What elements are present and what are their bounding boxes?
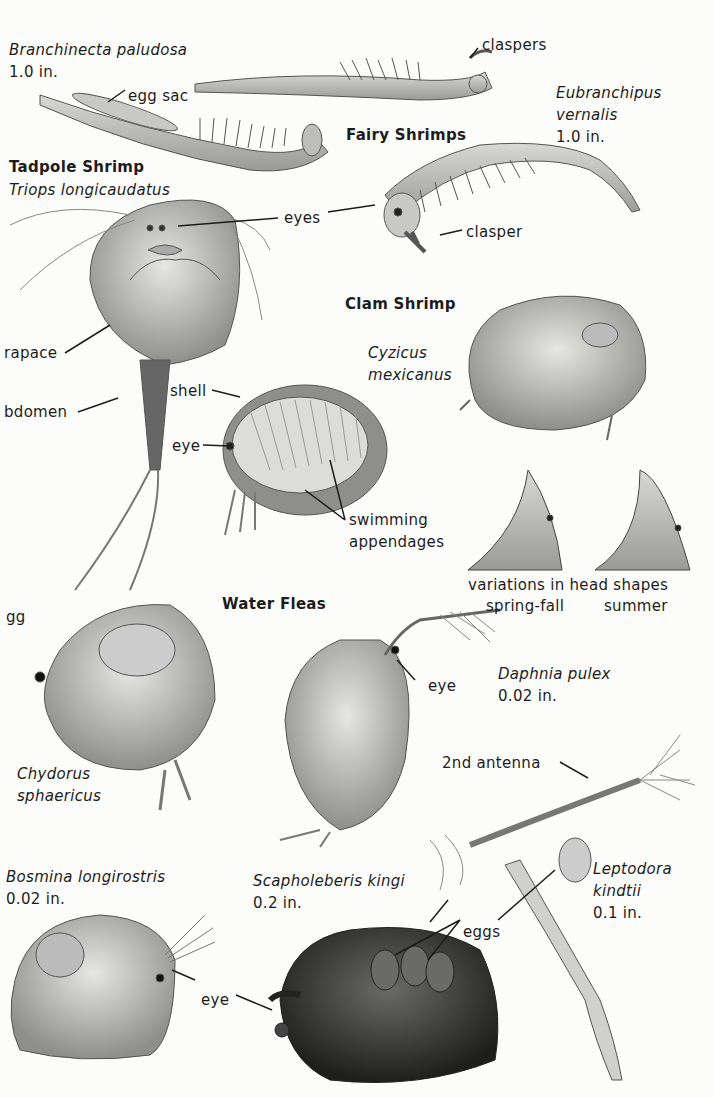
eubranchipus-name-line1: Eubranchipus [556,83,662,103]
eye-callout-daphnia: eye [428,676,456,696]
second-antenna-callout: 2nd antenna [442,753,541,773]
claspers-callout: claspers [482,35,547,55]
daphnia-name: Daphnia pulex [498,664,611,684]
summer-caption: summer [604,596,668,616]
chydorus-name-line2: sphaericus [17,786,101,806]
eggs-callout: eggs [463,922,500,942]
bosmina-illustration [11,915,215,1059]
triops-name: Triops longicaudatus [9,180,170,200]
scapholeberis-name: Scapholeberis kingi [253,871,405,891]
abdomen-callout: bdomen [4,402,67,422]
bosmina-name: Bosmina longirostris [6,867,165,887]
leptodora-size: 0.1 in. [593,903,642,923]
egg-partial-callout: gg [6,607,26,627]
eubranchipus-name-line2: vernalis [556,105,618,125]
bosmina-size: 0.02 in. [6,889,65,909]
head-shapes-caption: variations in head shapes [468,575,668,595]
cyzicus-name-line1: Cyzicus [368,343,427,363]
branchinecta-male-illustration [195,51,492,100]
scapholeberis-illustration [270,928,498,1083]
branchinecta-name: Branchinecta paludosa [9,40,187,60]
eye-callout-bosmina: eye [201,990,229,1010]
clam-shrimp-heading: Clam Shrimp [345,294,456,314]
shell-callout: shell [170,381,206,401]
carapace-callout: rapace [4,343,57,363]
daphnia-head-shapes-illustration [468,470,690,570]
swimming-appendages-line2: appendages [349,532,444,552]
eyes-callout: eyes [284,208,320,228]
leptodora-name-line1: Leptodora [593,859,672,879]
fairy-shrimps-heading: Fairy Shrimps [346,125,466,145]
scapholeberis-size: 0.2 in. [253,893,302,913]
eubranchipus-size: 1.0 in. [556,127,605,147]
cyzicus-name-line2: mexicanus [368,365,452,385]
water-fleas-heading: Water Fleas [222,594,326,614]
swimming-appendages-line1: swimming [349,510,428,530]
cyzicus-shell-illustration [460,296,646,440]
daphnia-size: 0.02 in. [498,686,557,706]
eye-callout-clam: eye [172,436,200,456]
daphnia-pulex-illustration [280,610,500,847]
chydorus-name-line1: Chydorus [17,764,90,784]
tadpole-shrimp-heading: Tadpole Shrimp [9,157,144,177]
branchinecta-size: 1.0 in. [9,62,58,82]
clasper-callout: clasper [466,222,522,242]
egg-sac-callout: egg sac [128,86,188,106]
spring-fall-caption: spring-fall [486,596,564,616]
leptodora-name-line2: kindtii [593,881,641,901]
